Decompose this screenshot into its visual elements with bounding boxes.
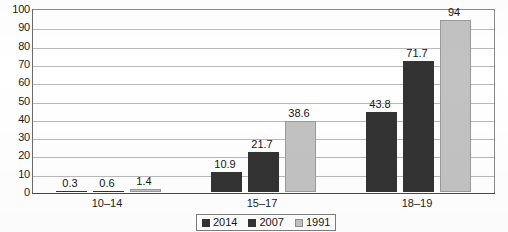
y-axis-tick-90: 90 <box>2 22 30 33</box>
category-label-10-14: 10–14 <box>67 197 147 209</box>
bar-2014-18-19 <box>366 112 397 192</box>
bar-chart: 1009080706050403020100 0.30.61.410.921.7… <box>0 0 508 232</box>
bar-value-1991-10-14: 1.4 <box>123 176 166 187</box>
legend-swatch-icon-1991 <box>295 219 303 227</box>
legend-label-1991: 1991 <box>306 217 330 228</box>
bar-2007-10-14 <box>93 191 124 192</box>
bar-value-2007-18-19: 71.7 <box>396 48 439 59</box>
legend-label-2007: 2007 <box>259 217 283 228</box>
y-axis-tick-60: 60 <box>2 77 30 88</box>
bar-2007-18-19 <box>403 61 434 192</box>
y-axis-tick-30: 30 <box>2 132 30 143</box>
y-axis-tick-10: 10 <box>2 169 30 180</box>
gridline-90 <box>33 29 494 30</box>
bar-1991-10-14 <box>130 189 161 192</box>
bar-value-1991-15-17: 38.6 <box>278 108 321 119</box>
y-axis-tick-50: 50 <box>2 96 30 107</box>
y-axis-tick-100: 100 <box>2 4 30 15</box>
bar-2014-10-14 <box>56 191 87 192</box>
y-axis-tick-labels: 1009080706050403020100 <box>0 0 30 232</box>
bar-1991-18-19 <box>440 20 471 192</box>
legend-item-1991[interactable]: 1991 <box>295 217 330 228</box>
category-label-15-17: 15–17 <box>222 197 302 209</box>
chart-legend: 201420071991 <box>196 214 336 231</box>
legend-item-2014[interactable]: 2014 <box>202 217 237 228</box>
bar-2014-15-17 <box>211 172 242 192</box>
legend-swatch-icon-2007 <box>248 219 256 227</box>
y-axis-tick-0: 0 <box>2 187 30 198</box>
legend-item-2007[interactable]: 2007 <box>248 217 283 228</box>
bar-value-2014-15-17: 10.9 <box>204 159 247 170</box>
legend-label-2014: 2014 <box>213 217 237 228</box>
plot-area <box>32 9 495 194</box>
y-axis-tick-40: 40 <box>2 114 30 125</box>
bar-value-1991-18-19: 94 <box>433 7 476 18</box>
bar-2007-15-17 <box>248 152 279 192</box>
y-axis-line <box>32 9 33 194</box>
category-label-18-19: 18–19 <box>377 197 457 209</box>
y-axis-tick-20: 20 <box>2 150 30 161</box>
x-axis-line <box>32 193 495 194</box>
y-axis-tick-70: 70 <box>2 59 30 70</box>
bar-value-2007-15-17: 21.7 <box>241 139 284 150</box>
y-axis-tick-80: 80 <box>2 41 30 52</box>
bar-value-2014-18-19: 43.8 <box>359 99 402 110</box>
legend-swatch-icon-2014 <box>202 219 210 227</box>
bar-1991-15-17 <box>285 121 316 192</box>
